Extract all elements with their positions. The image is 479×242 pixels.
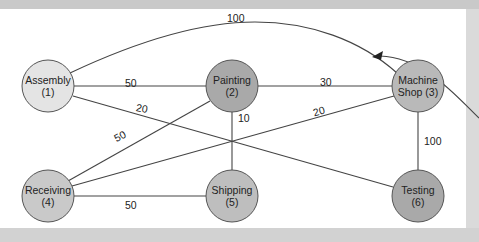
node-number: (4)	[13, 196, 83, 208]
node-name: Painting	[197, 74, 267, 86]
node-number: (1)	[13, 86, 83, 98]
node-number: (5)	[197, 196, 267, 208]
node-number: (6)	[383, 196, 453, 208]
edge-weight-1-6: 20	[135, 101, 149, 115]
node-label-receiving: Receiving (4)	[13, 184, 83, 208]
node-name: Machine	[383, 74, 453, 86]
node-label-machine-shop: Machine Shop (3)	[383, 74, 453, 98]
node-number: (2)	[197, 86, 267, 98]
node-label-testing: Testing (6)	[383, 184, 453, 208]
node-label-shipping: Shipping (5)	[197, 184, 267, 208]
node-name: Assembly	[13, 74, 83, 86]
edge-weight-3-6: 100	[424, 135, 442, 147]
node-label-assembly: Assembly (1)	[13, 74, 83, 98]
edge-weight-2-3: 30	[320, 76, 332, 88]
node-name: Shipping	[197, 184, 267, 196]
node-label-painting: Painting (2)	[197, 74, 267, 98]
edge-weight-1-3: 100	[227, 12, 245, 24]
edge-weight-4-5: 50	[125, 199, 137, 211]
edge-weight-1-2: 50	[125, 77, 137, 89]
edge-weight-2-5: 10	[238, 112, 250, 124]
node-name: Receiving	[13, 184, 83, 196]
node-name: Testing	[383, 184, 453, 196]
node-number: Shop (3)	[383, 86, 453, 98]
